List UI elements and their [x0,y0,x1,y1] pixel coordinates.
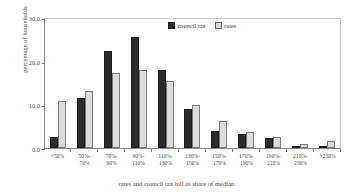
x-axis-tick-label-line: 130%- [179,153,206,160]
x-axis-tick-label-line: 170% [206,160,233,167]
bar-rates [58,101,66,148]
x-axis-tickmarks [44,149,341,152]
x-axis-tick-label-line: <50% [44,153,71,160]
x-axis-tick-label: >230% [314,153,341,168]
bar-group [313,19,340,148]
y-axis-tick-label: 0.0 [18,146,40,153]
bar-rates [85,91,93,148]
bar-group [286,19,313,148]
x-axis-tick-label-line: 90%- [125,153,152,160]
x-axis-tickmark [260,149,287,152]
bar-rates [139,70,147,148]
x-axis-tick-label-line: 190%- [260,153,287,160]
x-axis-tick-label-line: 110%- [152,153,179,160]
bar-council-tax [292,146,300,148]
bar-council-tax [265,138,273,148]
x-axis-tick-label: 150%-170% [206,153,233,168]
x-axis-tick-label-line: 70% [71,160,98,167]
y-axis-tickmark [42,106,45,107]
x-axis-tick-label: 170%-190% [233,153,260,168]
legend-swatch-rates-icon [215,22,222,29]
x-axis-tickmark [125,149,152,152]
legend-entry: council tax [168,22,206,29]
x-axis-tick-label-line: 150% [179,160,206,167]
bar-rates [246,132,254,148]
y-axis-tickmark [42,19,45,20]
x-axis-tickmark [179,149,206,152]
y-axis-tick-label: 30.0 [18,15,40,22]
x-axis-tickmark [152,149,179,152]
bar-group [260,19,287,148]
y-axis-tick-labels: 0.010.020.030.0 [16,0,40,196]
x-axis-tick-labels: <50%50%-70%70%-90%90%-110%110%-130%130%-… [44,153,341,168]
bar-group [152,19,179,148]
bar-group [179,19,206,148]
bar-chart: percentage of households 0.010.020.030.0… [0,0,353,196]
bar-group [233,19,260,148]
legend-label: rates [224,22,236,29]
bar-group [206,19,233,148]
bar-council-tax [238,134,246,148]
x-axis-tick-label-line: 170%- [233,153,260,160]
x-axis-tickmark [206,149,233,152]
y-axis-tick-label: 20.0 [18,58,40,65]
legend-label: council tax [178,22,206,29]
x-axis-tickmark [233,149,260,152]
x-axis-tick-label-line: 210%- [287,153,314,160]
bar-group [99,19,126,148]
bar-council-tax [131,37,139,148]
plot-area [44,18,341,149]
bar-rates [327,141,335,148]
x-axis-tick-label: 110%-130% [152,153,179,168]
x-axis-tick-label-line: 230% [287,160,314,167]
bar-council-tax [104,51,112,148]
bar-council-tax [184,109,192,148]
bar-council-tax [77,98,85,148]
bar-group [45,19,72,148]
x-axis-tick-label: 210%-230% [287,153,314,168]
x-axis-title: rates and council tax bill as share of m… [0,180,353,187]
bar-rates [166,81,174,148]
x-axis-tick-label-line: 210% [260,160,287,167]
x-axis-tick-label-line: 190% [233,160,260,167]
x-axis-tick-label: 190%-210% [260,153,287,168]
bars-layer [45,19,340,148]
x-axis-tickmark [314,149,341,152]
bar-council-tax [50,137,58,148]
x-axis-tickmark [287,149,314,152]
x-axis-tick-label: 90%-110% [125,153,152,168]
x-axis-tick-label-line: >230% [314,153,341,160]
legend-swatch-council-tax-icon [168,22,175,29]
bar-rates [300,144,308,148]
x-axis-tick-label: 130%-150% [179,153,206,168]
x-axis-tick-label-line: 50%- [71,153,98,160]
x-axis-tick-label-line: 150%- [206,153,233,160]
x-axis-tick-label-line: 90% [98,160,125,167]
x-axis-tick-label-line: 110% [125,160,152,167]
x-axis-tick-label: 70%-90% [98,153,125,168]
x-axis-tick-label: <50% [44,153,71,168]
bar-rates [192,105,200,148]
x-axis-tickmark [71,149,98,152]
chart-legend: council taxrates [168,22,236,29]
bar-group [72,19,99,148]
x-axis-tickmark [44,149,71,152]
x-axis-tickmark [98,149,125,152]
bar-council-tax [211,131,219,148]
bar-council-tax [319,146,327,148]
y-axis-tickmark [42,63,45,64]
x-axis-tick-label-line: 130% [152,160,179,167]
bar-rates [112,73,120,148]
bar-rates [273,137,281,148]
legend-entry: rates [215,22,237,29]
y-axis-tick-label: 10.0 [18,102,40,109]
x-axis-tick-label: 50%-70% [71,153,98,168]
x-axis-tick-label-line: 70%- [98,153,125,160]
bar-council-tax [158,70,166,148]
bar-rates [219,121,227,148]
bar-group [125,19,152,148]
